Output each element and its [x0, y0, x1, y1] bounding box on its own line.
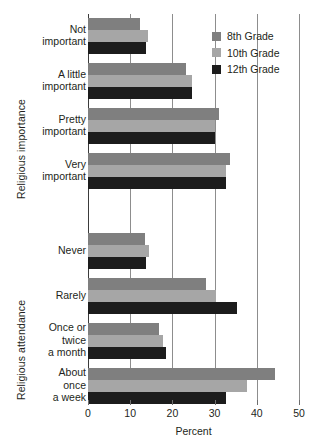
category-label-line: twice [8, 334, 86, 346]
x-axis-tick [299, 400, 300, 405]
category-label-line: important [8, 35, 86, 47]
category-label-line: About [8, 366, 86, 378]
category-label-line: Never [8, 244, 86, 256]
category-axis-labels: NotimportantA littleimportantPrettyimpor… [0, 0, 86, 445]
category-label: Never [8, 244, 86, 256]
bar [88, 278, 206, 290]
category-label: Notimportant [8, 23, 86, 48]
x-axis-tick-label: 10 [115, 407, 145, 419]
category-label: Aboutoncea week [8, 366, 86, 403]
legend-label: 10th Grade [227, 47, 280, 59]
bar [88, 335, 163, 347]
x-axis-title: Percent [88, 425, 299, 437]
category-label-line: A little [8, 68, 86, 80]
x-axis-tick [130, 400, 131, 405]
category-label-line: Pretty [8, 113, 86, 125]
bar [88, 380, 247, 392]
category-label-line: Rarely [8, 289, 86, 301]
category-label-line: Not [8, 23, 86, 35]
category-label-line: Very [8, 158, 86, 170]
category-label: Veryimportant [8, 158, 86, 183]
category-label-line: a week [8, 391, 86, 403]
x-axis-tick [257, 400, 258, 405]
bar-chart: Religious importance Religious attendanc… [0, 0, 312, 445]
x-axis-tick [88, 400, 89, 405]
legend-item: 8th Grade [212, 29, 308, 43]
bar [88, 18, 140, 30]
x-axis-tick-label: 50 [284, 407, 312, 419]
legend-item: 10th Grade [212, 46, 308, 60]
bar [88, 177, 226, 189]
x-axis-tick [215, 400, 216, 405]
bar [88, 245, 149, 257]
bar [88, 42, 146, 54]
category-label-line: Once or [8, 321, 86, 333]
bar [88, 347, 166, 359]
bar [88, 153, 230, 165]
x-axis-tick-label: 40 [242, 407, 272, 419]
bar [88, 87, 192, 99]
bar [88, 302, 237, 314]
category-label: Prettyimportant [8, 113, 86, 138]
legend-label: 12th Grade [227, 63, 280, 75]
legend-label: 8th Grade [227, 30, 274, 42]
bar [88, 165, 226, 177]
category-label: A littleimportant [8, 68, 86, 93]
bar [88, 233, 145, 245]
bar [88, 30, 148, 42]
category-label: Once ortwicea month [8, 321, 86, 358]
bar [88, 290, 216, 302]
x-axis-tick-label: 20 [157, 407, 187, 419]
bar [88, 75, 192, 87]
bar [88, 257, 146, 269]
legend-item: 12th Grade [212, 62, 308, 76]
category-label-line: important [8, 125, 86, 137]
bar [88, 323, 159, 335]
x-axis-tick-label: 0 [73, 407, 103, 419]
bar [88, 63, 186, 75]
bar [88, 368, 275, 380]
legend-swatch-icon [212, 48, 221, 57]
category-label-line: important [8, 170, 86, 182]
legend-swatch-icon [212, 32, 221, 41]
legend-swatch-icon [212, 65, 221, 74]
category-label-line: important [8, 80, 86, 92]
bar [88, 120, 215, 132]
bar [88, 132, 215, 144]
x-axis-tick [172, 400, 173, 405]
legend: 8th Grade10th Grade12th Grade [212, 29, 308, 79]
category-label: Rarely [8, 289, 86, 301]
bar [88, 108, 219, 120]
x-axis-tick-label: 30 [200, 407, 230, 419]
category-label-line: a month [8, 346, 86, 358]
category-label-line: once [8, 379, 86, 391]
